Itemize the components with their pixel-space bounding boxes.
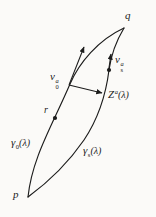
label-gammas: γs(λ) bbox=[83, 145, 101, 160]
curve-gamma0 bbox=[28, 28, 124, 197]
vector-v0-arrow bbox=[69, 47, 84, 85]
label-v0-base: v bbox=[50, 70, 55, 82]
figure-canvas: q p r va0 vas Za(λ) γ0(λ) γs(λ) bbox=[0, 0, 156, 217]
curve-gammas bbox=[28, 28, 124, 197]
label-z-arg: (λ) bbox=[118, 89, 129, 100]
label-v0-sub: 0 bbox=[55, 84, 58, 90]
label-gammas-arg: (λ) bbox=[90, 145, 101, 156]
label-z-base: Z bbox=[108, 88, 114, 100]
label-gammas-base: γ bbox=[83, 144, 87, 156]
diagram-svg bbox=[0, 0, 156, 217]
point-r-dot bbox=[53, 116, 57, 120]
label-gamma0-arg: (λ) bbox=[19, 137, 30, 148]
label-vs: vas bbox=[115, 54, 124, 72]
label-point-q: q bbox=[125, 10, 131, 21]
label-point-r: r bbox=[44, 104, 48, 115]
label-v0: va0 bbox=[50, 71, 59, 89]
label-point-p: p bbox=[13, 189, 19, 200]
vector-z-arrow bbox=[69, 85, 102, 93]
label-z: Za(λ) bbox=[108, 86, 129, 100]
point-s-dot bbox=[107, 68, 111, 72]
label-vs-sub: s bbox=[120, 67, 123, 73]
label-gamma0: γ0(λ) bbox=[11, 137, 30, 152]
label-gamma0-base: γ bbox=[11, 136, 15, 148]
label-vs-base: v bbox=[115, 53, 120, 65]
